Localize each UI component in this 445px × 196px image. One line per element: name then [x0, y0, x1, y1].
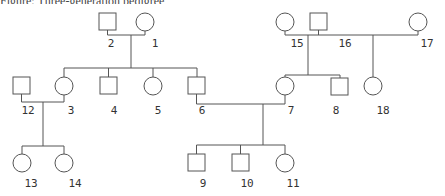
individual-9-male-square	[188, 154, 205, 171]
sibship-line-9-10-11	[197, 145, 286, 154]
label-individual-8: 8	[333, 105, 340, 117]
individual-6-male-square	[188, 77, 205, 94]
label-individual-15: 15	[290, 38, 303, 50]
individual-12-male-square	[13, 77, 30, 94]
label-individual-7: 7	[288, 105, 295, 117]
label-individual-2: 2	[108, 38, 115, 50]
individual-3-female-circle	[55, 77, 73, 95]
label-individual-3: 3	[68, 105, 75, 117]
individual-4-male-square	[100, 77, 117, 94]
individual-10-male-square	[232, 154, 249, 171]
sibship-line-3-4-5-6	[64, 68, 197, 77]
label-individual-14: 14	[68, 178, 81, 190]
label-individual-4: 4	[111, 105, 118, 117]
individual-17-female-circle	[409, 13, 427, 31]
label-individual-1: 1	[152, 38, 159, 50]
individual-1-female-circle	[136, 13, 154, 31]
mating-line-6-7	[197, 94, 286, 104]
mating-line-15-16-17	[285, 30, 418, 35]
label-individual-18: 18	[376, 105, 389, 117]
individual-2-male-square	[99, 13, 116, 30]
sibship-line-13-14	[22, 146, 64, 154]
individual-16-male-square	[310, 13, 327, 30]
label-individual-5: 5	[155, 105, 162, 117]
label-individual-11: 11	[286, 178, 299, 190]
mating-line-12-3	[22, 94, 65, 102]
label-individual-6: 6	[199, 105, 206, 117]
label-individual-12: 12	[21, 105, 34, 117]
individual-7-female-circle	[276, 77, 294, 95]
label-individual-9: 9	[200, 178, 207, 190]
label-individual-16: 16	[338, 38, 351, 50]
individual-11-female-circle	[276, 154, 294, 172]
individual-14-female-circle	[55, 154, 73, 172]
pedigree-diagram	[0, 0, 445, 196]
individual-8-male-square	[331, 78, 348, 95]
individual-5-female-circle	[144, 77, 162, 95]
individual-13-female-circle	[13, 154, 31, 172]
individual-18-female-circle	[364, 77, 382, 95]
label-individual-10: 10	[240, 178, 253, 190]
mating-line-2-1	[108, 30, 146, 35]
individual-15-female-circle	[276, 13, 294, 31]
label-individual-17: 17	[420, 38, 433, 50]
label-individual-13: 13	[24, 178, 37, 190]
